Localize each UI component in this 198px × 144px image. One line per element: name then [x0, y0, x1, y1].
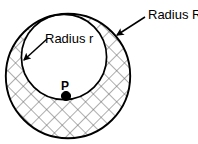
point-p-label: P: [61, 79, 69, 93]
outer-radius-label: Radius R: [148, 7, 198, 22]
figure-container: Radius R Radius r P: [0, 0, 198, 144]
inner-radius-label: Radius r: [45, 31, 94, 46]
outer-radius-leader-arrow: [117, 17, 145, 35]
annulus-diagram: Radius R Radius r P: [0, 0, 198, 144]
